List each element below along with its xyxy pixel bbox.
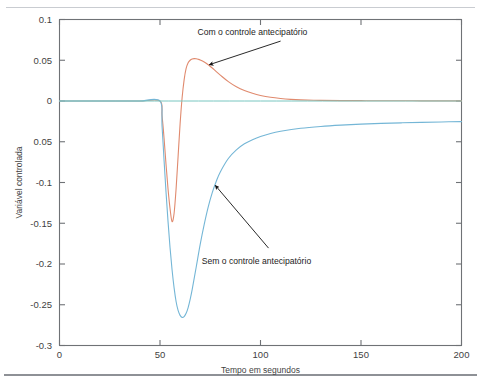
chart-plot-area: 0.10.0500.05-0.1-0.15-0.2-0.25-0.3 05010… <box>0 0 481 385</box>
y-tick-label: -0.1 <box>36 177 52 188</box>
annotation-label: Com o controle antecipatório <box>198 27 308 37</box>
x-axis-tick-labels: 050100150200 <box>57 349 470 360</box>
y-tick-label: 0.1 <box>39 14 52 25</box>
y-tick-label: -0.25 <box>30 299 52 310</box>
figure-container: 0.10.0500.05-0.1-0.15-0.2-0.25-0.3 05010… <box>0 0 481 385</box>
x-tick-label: 0 <box>57 349 62 360</box>
x-axis-tick-marks <box>60 20 462 346</box>
line-chart: 0.10.0500.05-0.1-0.15-0.2-0.25-0.3 05010… <box>0 0 481 385</box>
x-tick-label: 200 <box>454 349 470 360</box>
y-tick-label: 0.05 <box>34 55 53 66</box>
y-axis-title: Variável controlada <box>14 146 24 218</box>
y-tick-label: 0 <box>47 95 52 106</box>
y-tick-label: 0.05 <box>34 136 53 147</box>
series-line <box>60 59 462 222</box>
annotation-arrow <box>215 185 268 248</box>
annotation-group: Com o controle antecipatórioSem o contro… <box>198 27 312 266</box>
x-tick-label: 100 <box>253 349 269 360</box>
axis-frame <box>60 20 462 346</box>
annotation-label: Sem o controle antecipatório <box>202 256 312 266</box>
x-tick-label: 50 <box>155 349 166 360</box>
y-tick-label: -0.15 <box>30 218 52 229</box>
y-tick-label: -0.3 <box>36 340 52 351</box>
y-axis-tick-marks <box>60 20 462 346</box>
x-tick-label: 150 <box>353 349 369 360</box>
x-axis-title: Tempo em segundos <box>221 365 300 375</box>
y-tick-label: -0.2 <box>36 258 52 269</box>
series-line <box>60 99 462 317</box>
data-series-group <box>60 59 462 318</box>
annotation-arrow <box>209 41 280 65</box>
y-axis-tick-labels: 0.10.0500.05-0.1-0.15-0.2-0.25-0.3 <box>30 14 52 351</box>
